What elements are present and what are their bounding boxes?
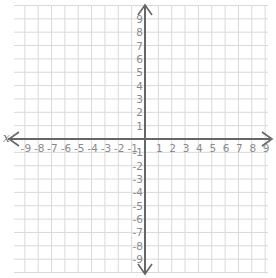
x-tick-label: 7 bbox=[236, 142, 243, 154]
x-tick-label: -5 bbox=[74, 142, 84, 154]
y-tick-label: 2 bbox=[136, 106, 143, 118]
x-axis-label: x bbox=[3, 131, 10, 145]
x-tick-label: 6 bbox=[223, 142, 230, 154]
y-tick-label: 3 bbox=[136, 93, 143, 105]
y-tick-label: 8 bbox=[136, 26, 143, 38]
x-tick-label: 4 bbox=[196, 142, 203, 154]
y-tick-label: 5 bbox=[136, 66, 143, 78]
y-tick-label: 4 bbox=[136, 80, 143, 92]
x-tick-label: -8 bbox=[34, 142, 44, 154]
y-tick-label: 1 bbox=[136, 120, 143, 132]
x-tick-label: -2 bbox=[114, 142, 124, 154]
x-tick-label: -7 bbox=[47, 142, 57, 154]
y-tick-label: -9 bbox=[133, 253, 143, 265]
y-tick-label: 9 bbox=[136, 13, 143, 25]
y-tick-label: -2 bbox=[133, 160, 143, 172]
y-tick-label: -3 bbox=[133, 173, 143, 185]
x-tick-label: -3 bbox=[101, 142, 111, 154]
y-tick-label: -7 bbox=[133, 226, 143, 238]
x-tick-label: -4 bbox=[87, 142, 98, 154]
x-tick-label: -9 bbox=[21, 142, 31, 154]
x-tick-label: 2 bbox=[169, 142, 176, 154]
y-tick-label: -5 bbox=[133, 200, 143, 212]
y-tick-label: 7 bbox=[136, 40, 143, 52]
x-tick-label: 3 bbox=[183, 142, 190, 154]
x-tick-label: 5 bbox=[209, 142, 216, 154]
coordinate-plane: x -9-8-7-6-5-4-3-2-1123456789987654321-1… bbox=[0, 0, 276, 278]
y-tick-label: -6 bbox=[133, 213, 144, 225]
x-tick-label: 9 bbox=[263, 142, 270, 154]
x-tick-label: -6 bbox=[61, 142, 72, 154]
y-tick-label: -8 bbox=[133, 240, 143, 252]
y-tick-label: 6 bbox=[136, 53, 143, 65]
y-tick-label: -4 bbox=[133, 186, 144, 198]
x-tick-label: 8 bbox=[249, 142, 256, 154]
x-tick-label: 1 bbox=[156, 142, 163, 154]
y-tick-label: -1 bbox=[133, 146, 143, 158]
